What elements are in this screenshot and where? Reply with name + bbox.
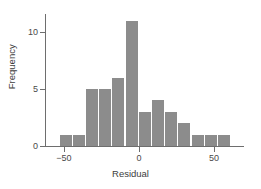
bars-layer	[46, 14, 241, 146]
x-axis-label: Residual	[0, 169, 261, 179]
histogram-bar	[60, 135, 73, 146]
histogram-bar	[165, 112, 178, 146]
histogram-bar	[112, 78, 125, 146]
y-axis-label: Frequency	[7, 27, 17, 107]
y-axis-tick-label: 10	[0, 28, 38, 37]
y-axis-tick	[40, 89, 45, 90]
x-axis-tick-label: 0	[119, 154, 159, 163]
histogram-bar	[178, 123, 191, 146]
histogram-bar	[192, 135, 205, 146]
x-axis-tick-label: 50	[194, 154, 234, 163]
y-axis-line	[45, 14, 46, 146]
histogram-bar	[99, 89, 112, 146]
y-axis-tick	[40, 146, 45, 147]
histogram-bar	[73, 135, 86, 146]
histogram-bar	[139, 112, 152, 146]
histogram-bar	[152, 100, 165, 146]
x-axis-tick	[139, 147, 140, 152]
x-axis-tick-label: −50	[44, 154, 84, 163]
plot-area	[46, 14, 241, 146]
histogram-chart: 0510 −50050 Residual Frequency	[0, 0, 261, 189]
histogram-bar	[126, 21, 139, 146]
histogram-bar	[218, 135, 231, 146]
y-axis-tick-label: 0	[0, 142, 38, 151]
histogram-bar	[86, 89, 99, 146]
histogram-bar	[205, 135, 218, 146]
y-axis-tick	[40, 32, 45, 33]
x-axis-tick	[64, 147, 65, 152]
x-axis-tick	[214, 147, 215, 152]
